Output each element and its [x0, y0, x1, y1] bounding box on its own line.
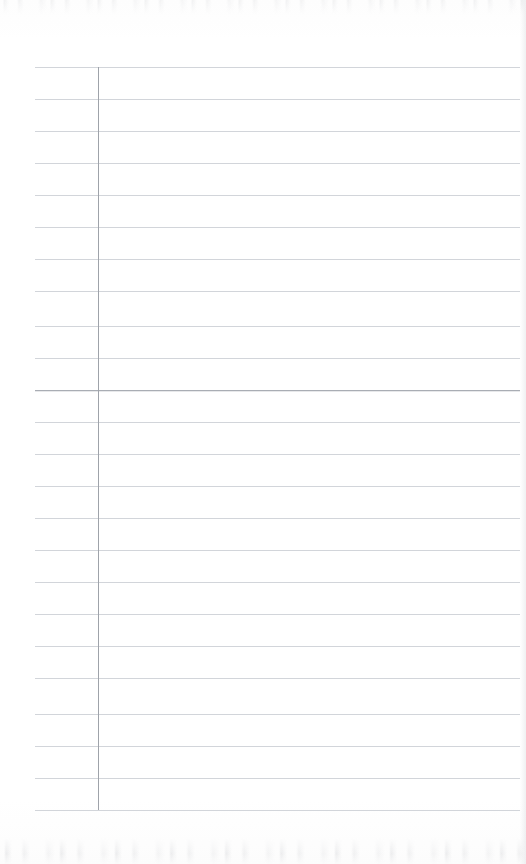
ruled-line: [35, 67, 520, 68]
vertical-margin-rule: [98, 67, 99, 810]
scanned-page: [0, 0, 526, 864]
ruled-line: [35, 99, 520, 100]
ruled-line: [35, 131, 520, 132]
ruled-line: [35, 227, 520, 228]
ruled-line: [35, 291, 520, 292]
ruled-line: [35, 646, 520, 647]
ruled-line: [35, 582, 520, 583]
ruled-line: [35, 518, 520, 519]
ruled-line: [35, 486, 520, 487]
ruled-line: [35, 422, 520, 423]
ruled-line: [35, 550, 520, 551]
ruled-line: [35, 163, 520, 164]
writing-area[interactable]: [0, 0, 526, 864]
ruled-line: [35, 259, 520, 260]
ruled-line: [35, 746, 520, 747]
ruled-line: [35, 778, 520, 779]
ruled-line: [35, 358, 520, 359]
ruled-line: [35, 810, 520, 811]
ruled-line: [35, 454, 520, 455]
ruled-line: [35, 678, 520, 679]
ruled-line: [35, 195, 520, 196]
ruled-line: [35, 326, 520, 327]
ruled-line: [35, 614, 520, 615]
ruled-line: [35, 390, 520, 391]
ruled-line: [35, 714, 520, 715]
